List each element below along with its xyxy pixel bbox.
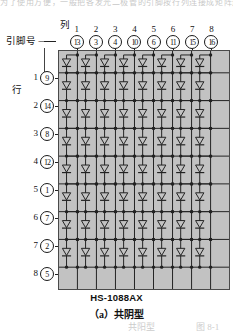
column-pin-bubble-1[interactable]: 13 (70, 35, 84, 49)
junction-r4-c8 (209, 154, 212, 157)
junction-r2-c2 (95, 99, 98, 102)
junction-r7-c2 (95, 238, 98, 241)
led-r2-c3 (100, 71, 117, 102)
row-index-column: 12345678 (24, 56, 38, 296)
led-r3-c2 (81, 99, 98, 130)
junction-r3-c2 (95, 127, 98, 130)
junction-r1-c7 (190, 71, 193, 74)
row-pin-bubble-1[interactable]: 9 (40, 71, 54, 85)
led-r8-c3 (100, 238, 117, 269)
junction-r1-c6 (171, 71, 174, 74)
led-r4-c4 (119, 127, 136, 158)
row-pin-bubble-7[interactable]: 2 (40, 239, 54, 253)
led-r2-c5 (138, 71, 155, 102)
column-index-8: 8 (203, 24, 219, 34)
column-pin-bubble-3[interactable]: 4 (108, 35, 122, 49)
led-r3-c1 (62, 99, 79, 130)
junction-r8-c1 (76, 265, 79, 268)
chip-part-number: HS-1088AX (0, 292, 233, 303)
led-r4-c8 (195, 127, 212, 158)
led-r1-c2 (81, 53, 98, 74)
junction-r2-c4 (133, 99, 136, 102)
junction-r6-c6 (171, 210, 174, 213)
column-pin-bubble-2[interactable]: 3 (89, 35, 103, 49)
column-index-3: 3 (107, 24, 123, 34)
row-index-5: 5 (24, 184, 38, 194)
led-r8-c1 (62, 238, 79, 269)
led-r4-c2 (81, 127, 98, 158)
column-pin-bubble-8[interactable]: 16 (204, 35, 218, 49)
junction-r8-c8 (209, 265, 212, 268)
pin-number-label: 引脚号 — (6, 33, 48, 47)
led-r2-c7 (176, 71, 193, 102)
led-r6-c4 (119, 182, 136, 213)
junction-r5-c7 (190, 182, 193, 185)
row-pin-bubble-3[interactable]: 8 (40, 127, 54, 141)
figure-sub-caption: （a）共阴型 (0, 306, 233, 321)
junction-r2-c5 (152, 99, 155, 102)
led-r7-c4 (119, 210, 136, 241)
junction-r7-c8 (209, 238, 212, 241)
led-r5-c2 (81, 154, 98, 185)
column-pin-bubble-4[interactable]: 10 (127, 35, 141, 49)
row-index-7: 7 (24, 240, 38, 250)
led-r8-c2 (81, 238, 98, 269)
led-r2-c2 (81, 71, 98, 102)
junction-r7-c7 (190, 238, 193, 241)
row-axis-label: 行 (12, 82, 22, 96)
row-pin-bubble-2[interactable]: 14 (40, 99, 54, 113)
column-index-2: 2 (88, 24, 104, 34)
top-bleed-label: 为了使用方便，一般把各发光二极管的引脚按行列连接成矩阵形式 (0, 0, 233, 7)
led-r6-c2 (81, 182, 98, 213)
led-r8-c6 (157, 238, 174, 269)
junction-r3-c7 (190, 127, 193, 130)
column-pin-bubbles: 1334106111516 (58, 35, 230, 51)
junction-r1-c5 (152, 71, 155, 74)
junction-r6-c5 (152, 210, 155, 213)
junction-r8-c5 (152, 265, 155, 268)
led-r6-c8 (195, 182, 212, 213)
junction-r2-c8 (209, 99, 212, 102)
junction-r5-c4 (133, 182, 136, 185)
led-r2-c4 (119, 71, 136, 102)
junction-r4-c3 (114, 154, 117, 157)
junction-r3-c8 (209, 127, 212, 130)
junction-r3-c6 (171, 127, 174, 130)
column-pin-bubble-7[interactable]: 15 (185, 35, 199, 49)
column-index-7: 7 (184, 24, 200, 34)
column-pin-bubble-5[interactable]: 6 (147, 35, 161, 49)
junction-r6-c8 (209, 210, 212, 213)
pin-leader-line (44, 41, 56, 42)
bottom-bleed-right: 图 8-1 (196, 322, 219, 333)
junction-r1-c1 (76, 71, 79, 74)
led-r5-c4 (119, 154, 136, 185)
row-pin-bubble-5[interactable]: 1 (40, 183, 54, 197)
row-pin-bubble-8[interactable]: 5 (40, 267, 54, 281)
column-pin-bubble-6[interactable]: 11 (166, 35, 180, 49)
led-r7-c8 (195, 210, 212, 241)
junction-r6-c7 (190, 210, 193, 213)
led-r2-c6 (157, 71, 174, 102)
row-pin-bubble-4[interactable]: 12 (40, 155, 54, 169)
led-r2-c1 (62, 71, 79, 102)
led-r4-c6 (157, 127, 174, 158)
junction-r7-c3 (114, 238, 117, 241)
junction-r7-c4 (133, 238, 136, 241)
junction-r7-c6 (171, 238, 174, 241)
junction-r3-c3 (114, 127, 117, 130)
led-r7-c3 (100, 210, 117, 241)
led-r5-c5 (138, 154, 155, 185)
led-r6-c1 (62, 182, 79, 213)
led-r7-c2 (81, 210, 98, 241)
led-r1-c3 (100, 53, 117, 74)
junction-r5-c8 (209, 182, 212, 185)
junction-r2-c1 (76, 99, 79, 102)
led-r4-c7 (176, 127, 193, 158)
junction-r3-c5 (152, 127, 155, 130)
junction-r4-c5 (152, 154, 155, 157)
led-r3-c4 (119, 99, 136, 130)
row-index-1: 1 (24, 72, 38, 82)
row-pin-bubble-6[interactable]: 7 (40, 211, 54, 225)
junction-r2-c3 (114, 99, 117, 102)
junction-r5-c1 (76, 182, 79, 185)
